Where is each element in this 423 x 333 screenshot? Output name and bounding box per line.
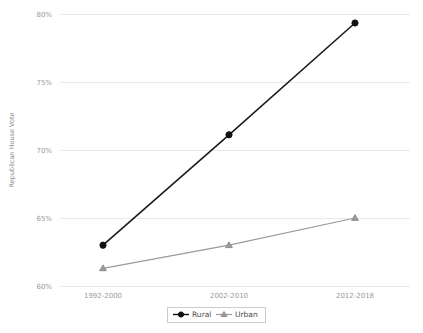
series-rural: [100, 20, 358, 248]
data-point-rural-0: [100, 242, 106, 248]
x-axis-tick-labels: 1992-2000 2002-2010 2012-2018: [84, 292, 374, 300]
legend-rural-marker-icon: [178, 312, 183, 317]
gridlines: [60, 14, 410, 286]
chart-legend[interactable]: Rural Urban: [167, 307, 265, 322]
chart-container: 80% 75% 70% 65% 60% Republican House Vot…: [0, 0, 423, 333]
legend-rural-label: Rural: [192, 310, 211, 319]
x-tick-label-0: 1992-2000: [84, 292, 122, 300]
series-urban: [100, 215, 359, 271]
data-point-rural-1: [226, 132, 232, 138]
x-tick-label-2: 2012-2018: [336, 292, 374, 300]
y-axis-tick-labels: 80% 75% 70% 65% 60%: [36, 11, 52, 291]
y-tick-label-75: 75%: [36, 79, 52, 87]
data-point-rural-2: [352, 20, 358, 26]
y-tick-label-70: 70%: [36, 147, 52, 155]
y-axis-title: Republican House Vote: [8, 113, 16, 188]
line-chart: 80% 75% 70% 65% 60% Republican House Vot…: [0, 0, 423, 333]
legend-urban-label: Urban: [235, 310, 258, 319]
y-tick-label-65: 65%: [36, 215, 52, 223]
x-tick-label-1: 2002-2010: [210, 292, 248, 300]
y-tick-label-80: 80%: [36, 11, 52, 19]
y-tick-label-60: 60%: [36, 283, 52, 291]
